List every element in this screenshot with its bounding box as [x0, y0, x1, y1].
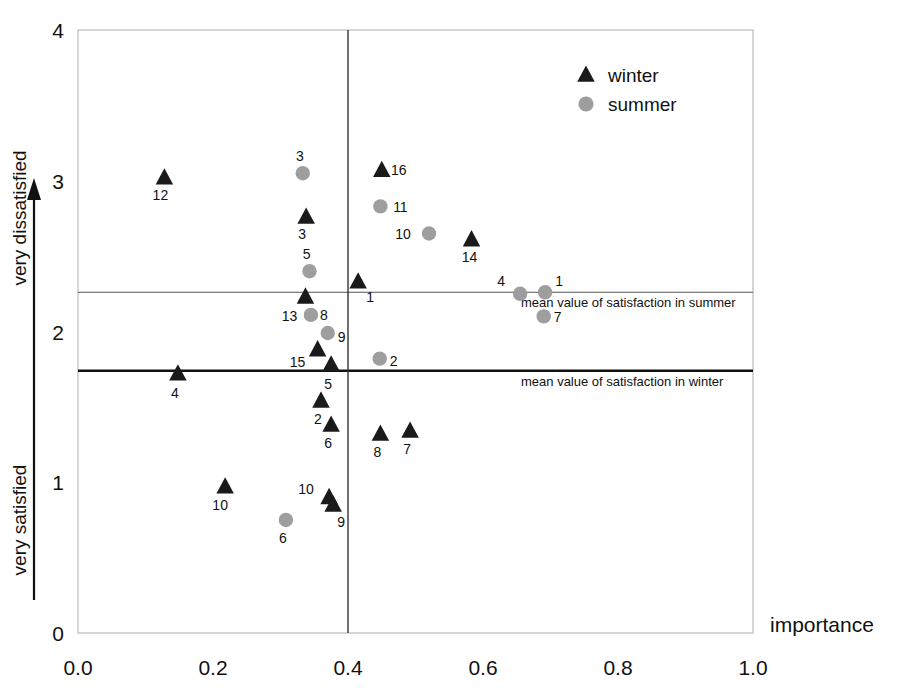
- point-label-summer-9: 9: [338, 329, 346, 345]
- marker-summer-2: [373, 351, 387, 365]
- marker-summer-10: [422, 226, 436, 240]
- point-label-winter-16: 16: [391, 162, 407, 178]
- point-label-winter-12: 12: [153, 187, 169, 203]
- point-label-summer-3: 3: [296, 148, 304, 164]
- point-label-summer-7: 7: [554, 309, 562, 325]
- x-tick-1.0: 1.0: [738, 656, 767, 679]
- marker-summer-9: [321, 326, 335, 340]
- x-tick-0.4: 0.4: [333, 656, 363, 679]
- legend-label-summer: summer: [608, 94, 677, 115]
- marker-summer-8: [304, 308, 318, 322]
- point-label-winter-14: 14: [462, 249, 478, 265]
- x-tick-0.6: 0.6: [468, 656, 497, 679]
- chart-canvas: mean value of satisfaction in summermean…: [0, 0, 901, 691]
- y-tick-4: 4: [52, 19, 64, 42]
- plot-frame: [78, 30, 753, 633]
- point-label-summer-2: 2: [390, 353, 398, 369]
- marker-summer-4: [513, 287, 527, 301]
- marker-summer-11: [373, 199, 387, 213]
- mean-line-label-summer: mean value of satisfaction in summer: [521, 295, 736, 310]
- x-tick-0.2: 0.2: [198, 656, 227, 679]
- point-label-winter-13: 13: [282, 308, 298, 324]
- y-tick-2: 2: [52, 321, 64, 344]
- point-label-winter-15: 15: [290, 354, 306, 370]
- x-tick-0.8: 0.8: [603, 656, 632, 679]
- point-label-summer-6: 6: [279, 530, 287, 546]
- point-label-winter-9: 9: [337, 514, 345, 530]
- marker-summer-7: [537, 309, 551, 323]
- y-tick-0: 0: [52, 622, 64, 645]
- point-label-summer-10: 10: [395, 226, 411, 242]
- point-label-winter-1: 1: [366, 289, 374, 305]
- point-label-winter-3: 3: [298, 226, 306, 242]
- y-tick-1: 1: [52, 471, 64, 494]
- marker-summer-3: [296, 166, 310, 180]
- point-label-winter-6: 6: [324, 435, 332, 451]
- point-label-summer-11: 11: [393, 199, 408, 215]
- legend-marker-summer: [578, 96, 593, 111]
- point-label-summer-5: 5: [303, 246, 311, 262]
- marker-summer-1: [538, 285, 552, 299]
- marker-summer-5: [302, 264, 316, 278]
- point-label-winter-2: 2: [314, 411, 322, 427]
- legend-label-winter: winter: [607, 65, 659, 86]
- x-tick-0.0: 0.0: [63, 656, 92, 679]
- point-label-summer-4: 4: [497, 273, 505, 289]
- y-axis-bottom-label: very satisfied: [9, 465, 30, 576]
- scatter-chart: mean value of satisfaction in summermean…: [0, 0, 901, 691]
- point-label-winter-8: 8: [374, 444, 382, 460]
- point-label-winter-7: 7: [403, 441, 411, 457]
- point-label-winter-4: 4: [171, 385, 179, 401]
- point-label-summer-1: 1: [555, 273, 563, 289]
- point-label-winter-5: 5: [324, 376, 332, 392]
- x-axis-title: importance: [770, 613, 874, 636]
- point-label-winter-10: 10: [212, 497, 228, 513]
- marker-summer-6: [279, 513, 293, 527]
- point-label-summer-8: 8: [320, 307, 328, 323]
- y-axis-top-label: very dissatisfied: [9, 150, 30, 285]
- y-tick-3: 3: [52, 170, 64, 193]
- point-label-winter-10: 10: [298, 481, 314, 497]
- plot-area: [78, 30, 753, 633]
- mean-line-label-winter: mean value of satisfaction in winter: [521, 374, 724, 389]
